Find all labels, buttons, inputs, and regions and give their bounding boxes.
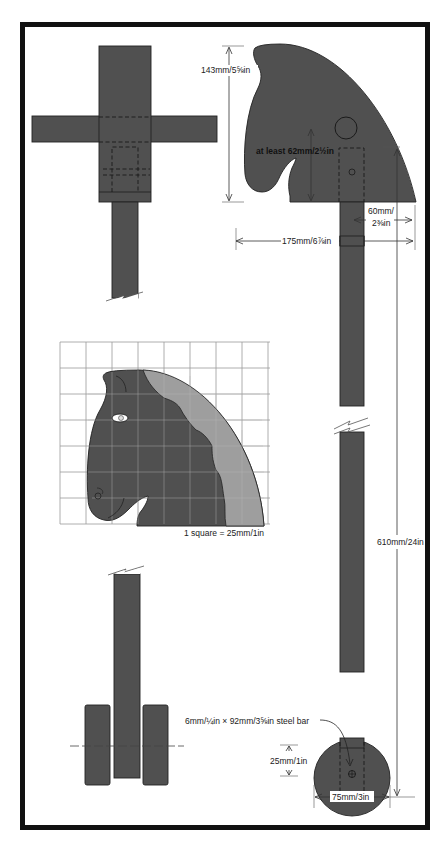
wheel-left bbox=[85, 705, 110, 785]
side-view: 143mm/5⅝in at least 62mm/2½in 60mm/ 2⅜in… bbox=[200, 44, 424, 797]
stick-length-label: 610mm/24in bbox=[377, 537, 424, 547]
hobby-horse-plan: 143mm/5⅝in at least 62mm/2½in 60mm/ 2⅜in… bbox=[0, 0, 441, 848]
head-front bbox=[99, 46, 151, 202]
stick-front-lower bbox=[114, 574, 140, 778]
stick-join bbox=[340, 738, 364, 748]
handle-offset-label-2: 2⅜in bbox=[372, 218, 391, 228]
wheel-diameter-label: 75mm/3in bbox=[332, 792, 370, 802]
head-side bbox=[244, 44, 416, 202]
stick-side-upper bbox=[340, 202, 364, 406]
scale-label: 1 square = 25mm/1in bbox=[184, 528, 264, 538]
handle-offset-label-1: 60mm/ bbox=[368, 206, 395, 216]
stick-front bbox=[112, 202, 138, 298]
wheel-front-view bbox=[70, 566, 184, 785]
pupil bbox=[119, 416, 124, 421]
stick-overlay bbox=[340, 236, 364, 246]
socket-depth-label: at least 62mm/2½in bbox=[256, 146, 334, 156]
wheel-right bbox=[143, 705, 168, 785]
stick-side-lower bbox=[340, 432, 364, 672]
wheel-side-view: 6mm/¼in × 92mm/3⅝in steel bar 25mm/1in 7… bbox=[185, 716, 390, 816]
axle-label: 6mm/¼in × 92mm/3⅝in steel bar bbox=[185, 716, 309, 726]
axle-height-label: 25mm/1in bbox=[270, 756, 308, 766]
head-height-label: 143mm/5⅝in bbox=[201, 65, 250, 75]
wheel-side bbox=[314, 740, 390, 816]
head-width-label: 175mm/6⅞in bbox=[282, 236, 331, 246]
pattern-grid: 1 square = 25mm/1in bbox=[60, 342, 270, 538]
front-view bbox=[32, 46, 217, 302]
